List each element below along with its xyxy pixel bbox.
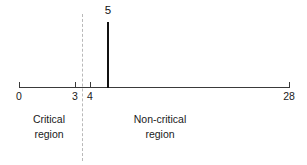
critical-region-label-line1: Critical [33, 113, 65, 125]
critical-region-label: Critical region [0, 112, 109, 142]
axis-tick-label-3: 28 [277, 90, 301, 102]
axis-tick-1 [75, 82, 76, 88]
axis-tick-label-0: 0 [7, 90, 31, 102]
axis-line [19, 87, 289, 88]
axis-tick-2 [90, 82, 91, 88]
axis-tick-0 [19, 82, 20, 88]
number-line-figure: 0 3 4 28 5 Critical region Non-critical … [0, 0, 307, 165]
observed-statistic-spike [107, 22, 109, 88]
noncritical-region-label-line2: region [100, 127, 220, 142]
observed-statistic-label: 5 [93, 4, 123, 17]
noncritical-region-label-line1: Non-critical [134, 113, 187, 125]
noncritical-region-label: Non-critical region [100, 112, 220, 142]
axis-tick-3 [289, 82, 290, 88]
critical-region-label-line2: region [0, 127, 109, 142]
